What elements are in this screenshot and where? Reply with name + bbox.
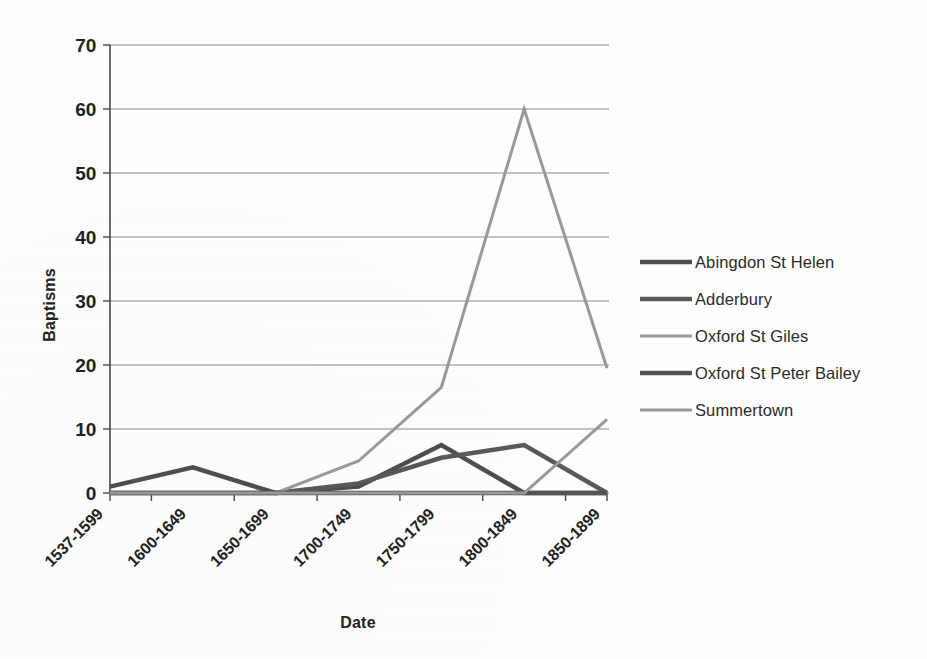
y-tick-label-10: 10 <box>75 419 96 440</box>
y-axis-title: Baptisms <box>41 268 58 342</box>
y-tick-label-40: 40 <box>75 227 96 248</box>
legend-label-1: Adderbury <box>695 290 773 308</box>
legend-label-3: Oxford St Peter Bailey <box>695 364 861 382</box>
y-tick-label-70: 70 <box>75 35 96 56</box>
y-tick-label-0: 0 <box>86 483 96 504</box>
y-tick-label-20: 20 <box>75 355 96 376</box>
legend-label-4: Summertown <box>695 401 793 419</box>
baptisms-line-chart: 010203040506070 Baptisms Date 1537-15991… <box>0 0 927 659</box>
legend-label-0: Abingdon St Helen <box>695 253 834 271</box>
y-tick-label-30: 30 <box>75 291 96 312</box>
x-axis-title: Date <box>340 614 375 631</box>
chart-container: 010203040506070 Baptisms Date 1537-15991… <box>0 0 927 659</box>
y-tick-label-60: 60 <box>75 99 96 120</box>
y-tick-label-50: 50 <box>75 163 96 184</box>
legend-label-2: Oxford St Giles <box>695 327 808 345</box>
